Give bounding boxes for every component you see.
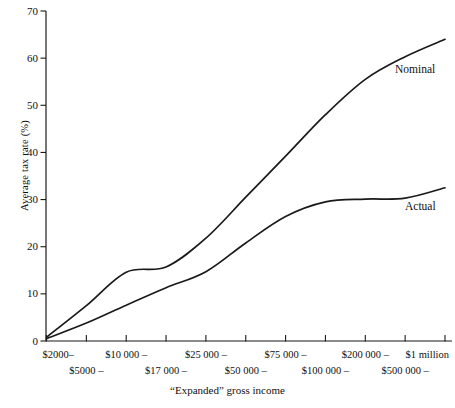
series-line-actual [47, 188, 446, 339]
y-tick-label: 70 [12, 6, 38, 17]
series-label-nominal: Nominal [395, 63, 435, 75]
chart-canvas [0, 0, 455, 408]
x-tick-label: $500 000 – [345, 365, 455, 376]
x-axis-title: “Expanded” gross income [0, 384, 455, 396]
y-tick-label: 40 [12, 147, 38, 158]
chart-figure: Average tax rate (%) “Expanded” gross in… [0, 0, 455, 408]
series-label-actual: Actual [405, 200, 436, 212]
y-tick-label: 10 [12, 288, 38, 299]
y-tick-label: 60 [12, 53, 38, 64]
y-tick-label: 50 [12, 100, 38, 111]
y-tick-label: 30 [12, 194, 38, 205]
y-tick-marks [41, 11, 47, 341]
x-tick-label: $1 million [329, 349, 449, 360]
y-tick-label: 20 [12, 241, 38, 252]
series-line-nominal [47, 39, 446, 337]
y-tick-label: 0 [12, 336, 38, 347]
